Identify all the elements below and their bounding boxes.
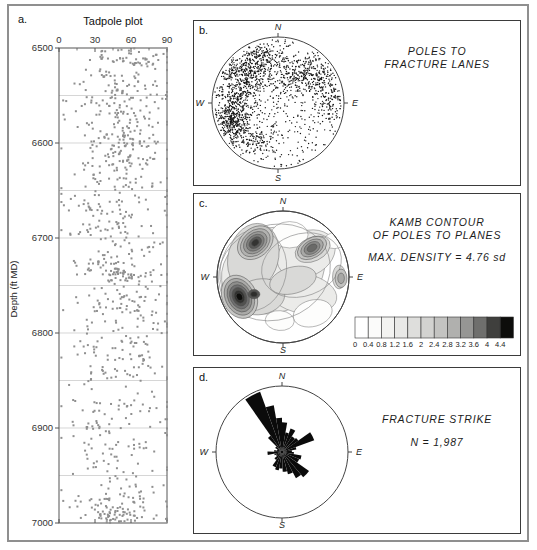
svg-text:W: W [201, 272, 211, 282]
poles-caption-line1: POLES TO [357, 45, 517, 58]
svg-text:1.6: 1.6 [403, 340, 413, 349]
svg-text:1.2: 1.2 [389, 340, 399, 349]
svg-text:3.2: 3.2 [455, 340, 465, 349]
panel-d-label: d. [199, 371, 208, 383]
kamb-caption-line1: KAMB CONTOUR [357, 216, 517, 229]
svg-text:0.4: 0.4 [363, 340, 373, 349]
svg-text:6800: 6800 [32, 327, 53, 338]
poles-caption: POLES TO FRACTURE LANES [357, 45, 517, 71]
svg-text:60: 60 [126, 34, 137, 45]
figure-canvas: 0306090650066006700680069007000NSWENSWE0… [0, 0, 537, 550]
svg-text:3.6: 3.6 [469, 340, 479, 349]
poles-caption-line2: FRACTURE LANES [357, 58, 517, 71]
rose-count: N = 1,987 [357, 436, 517, 449]
panel-c-label: c. [199, 197, 208, 209]
svg-text:6700: 6700 [32, 232, 53, 243]
svg-text:7000: 7000 [32, 517, 53, 528]
svg-text:90: 90 [162, 34, 173, 45]
svg-text:0: 0 [353, 340, 357, 349]
svg-text:0: 0 [56, 34, 61, 45]
svg-text:S: S [275, 173, 281, 183]
panel-b-label: b. [199, 24, 208, 36]
svg-text:N: N [280, 196, 287, 206]
svg-text:N: N [275, 22, 282, 32]
svg-text:2: 2 [419, 340, 423, 349]
svg-text:6500: 6500 [32, 42, 53, 53]
svg-text:E: E [357, 272, 364, 282]
svg-text:4: 4 [485, 340, 489, 349]
svg-text:S: S [280, 345, 286, 355]
panel-a-label: a. [18, 13, 27, 25]
svg-text:0.8: 0.8 [376, 340, 386, 349]
svg-text:4.4: 4.4 [495, 340, 505, 349]
svg-text:N: N [279, 371, 286, 381]
svg-text:W: W [196, 98, 206, 108]
kamb-caption-line2: OF POLES TO PLANES [357, 229, 517, 242]
svg-text:6900: 6900 [32, 422, 53, 433]
svg-text:W: W [200, 447, 210, 457]
svg-text:2.8: 2.8 [442, 340, 452, 349]
tadpole-plot-title: Tadpole plot [59, 15, 167, 27]
depth-axis-label: Depth (ft MD) [8, 230, 19, 348]
rose-caption: FRACTURE STRIKE [357, 413, 517, 426]
svg-text:30: 30 [90, 34, 101, 45]
kamb-caption: KAMB CONTOUR OF POLES TO PLANES [357, 216, 517, 242]
svg-text:E: E [352, 98, 359, 108]
svg-text:2.4: 2.4 [429, 340, 439, 349]
svg-text:S: S [279, 520, 285, 530]
svg-text:6600: 6600 [32, 137, 53, 148]
max-density-text: MAX. DENSITY = 4.76 sd [342, 251, 532, 264]
